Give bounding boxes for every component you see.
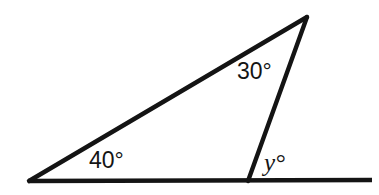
angle-label-y-degrees: y°	[264, 151, 285, 174]
triangle-figure	[0, 0, 379, 195]
angle-label-30-degrees: 30°	[237, 60, 272, 83]
base-line	[28, 180, 372, 181]
geometry-diagram: 40° 30° y°	[0, 0, 379, 195]
angle-label-40-degrees: 40°	[89, 149, 124, 172]
